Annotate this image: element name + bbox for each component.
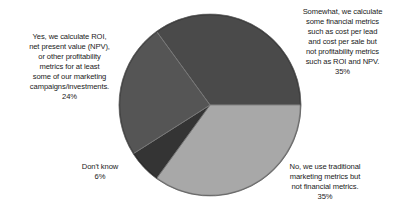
label-yes-pct: 24% [2,92,137,102]
label-dont-know: Don't know 6% [75,162,125,182]
label-no-line: not financial metrics. [275,182,375,192]
label-yes-line: Yes, we calculate ROI, [2,32,137,42]
label-yes-line: metrics for at least [2,62,137,72]
label-yes-line: or other profitability [2,52,137,62]
label-somewhat-line: Somewhat, we calculate [290,7,393,17]
label-yes-line: net present value (NPV), [2,42,137,52]
label-somewhat-line: such as cost per lead [290,27,393,37]
label-somewhat-line: and cost per sale but [290,37,393,47]
label-no-pct: 35% [275,192,375,202]
label-yes: Yes, we calculate ROI, net present value… [2,32,137,102]
label-no: No, we use traditional marketing metrics… [275,162,375,202]
label-somewhat-line: not profitability metrics [290,47,393,57]
label-somewhat-line: some financial metrics [290,17,393,27]
label-yes-line: campaigns/investments. [2,82,137,92]
label-no-line: No, we use traditional [275,162,375,172]
label-somewhat-pct: 35% [290,67,393,77]
label-yes-line: some of our marketing [2,72,137,82]
label-dont-know-line: Don't know [75,162,125,172]
label-no-line: marketing metrics but [275,172,375,182]
label-somewhat-line: such as ROI and NPV. [290,57,393,67]
label-dont-know-pct: 6% [75,172,125,182]
label-somewhat: Somewhat, we calculate some financial me… [290,7,393,77]
